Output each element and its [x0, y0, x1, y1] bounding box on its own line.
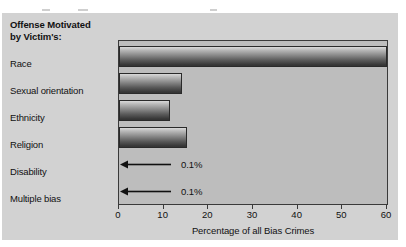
- chart-title: Offense Motivated by Victim's:: [10, 19, 114, 42]
- cropped-text-remnant: [0, 0, 406, 11]
- category-label-religion: Religion: [10, 139, 43, 150]
- x-axis-title: Percentage of all Bias Crimes: [118, 225, 388, 236]
- annotation-multiple-bias: 0.1%: [119, 181, 202, 202]
- category-label-disability: Disability: [10, 166, 47, 177]
- annotation-disability: 0.1%: [119, 154, 202, 175]
- x-tick-label-20: 20: [192, 209, 222, 220]
- category-label-multiple-bias: Multiple bias: [10, 193, 61, 204]
- chart-title-line-2: by Victim's:: [10, 31, 114, 43]
- category-label-column: Offense Motivated by Victim's: Race Sexu…: [10, 13, 114, 240]
- chart-card: Offense Motivated by Victim's: Race Sexu…: [2, 13, 398, 240]
- category-label-race: Race: [10, 58, 32, 69]
- x-tick-label-0: 0: [103, 209, 133, 220]
- chart-title-line-1: Offense Motivated: [10, 19, 114, 31]
- annotation-disability-text: 0.1%: [181, 159, 202, 170]
- bar-race: [119, 46, 387, 67]
- bar-ethnicity: [119, 100, 170, 121]
- plot-area: 0.1% 0.1%: [118, 40, 388, 205]
- category-label-ethnicity: Ethnicity: [10, 112, 45, 123]
- bar-religion: [119, 127, 187, 148]
- left-arrow-icon: [119, 159, 179, 170]
- annotation-multiple-bias-text: 0.1%: [181, 186, 202, 197]
- x-tick-label-40: 40: [282, 209, 312, 220]
- left-arrow-icon: [119, 186, 179, 197]
- x-tick-label-30: 30: [237, 209, 267, 220]
- x-tick-label-10: 10: [148, 209, 178, 220]
- bar-sexual-orientation: [119, 73, 182, 94]
- x-axis: 0102030405060: [118, 205, 388, 223]
- x-tick-label-50: 50: [326, 209, 356, 220]
- plot-inner: 0.1% 0.1%: [119, 41, 387, 204]
- x-tick-label-60: 60: [371, 209, 401, 220]
- category-label-sexual-orientation: Sexual orientation: [10, 85, 83, 96]
